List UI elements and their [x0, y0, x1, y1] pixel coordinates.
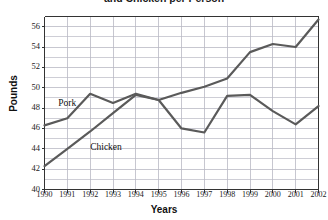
x-axis-label: Years [0, 204, 328, 215]
series-label-chicken: Chicken [90, 142, 122, 152]
axis-lines [42, 17, 319, 193]
y-tick-label: 44 [18, 144, 40, 153]
chart-title: and Chicken per Person [0, 0, 328, 4]
y-tick-label: 42 [18, 164, 40, 173]
y-tick-label: 46 [18, 123, 40, 132]
line-chart-figure: and Chicken per Person Pounds Years 4042… [0, 0, 328, 220]
y-tick-label: 54 [18, 42, 40, 51]
series-label-pork: Pork [58, 98, 76, 108]
y-tick-label: 48 [18, 103, 40, 112]
x-tick-label: 2002 [302, 190, 328, 199]
y-tick-label: 52 [18, 62, 40, 71]
grid-lines [45, 17, 319, 190]
y-tick-label: 50 [18, 83, 40, 92]
y-axis-tick-labels: 404244464850525456 [14, 0, 40, 220]
y-tick-label: 56 [18, 22, 40, 31]
plot-area [0, 0, 328, 220]
